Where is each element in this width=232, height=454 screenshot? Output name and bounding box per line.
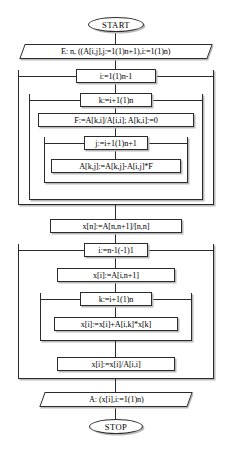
loop-k-forward-top-left-arm xyxy=(29,100,80,101)
loop-head-k-forward: k:=i+1(1)n xyxy=(80,93,152,107)
process-x-accumulate: x[i]:=x[i]+A[i,k]*x[k] xyxy=(54,317,178,331)
terminator-start: START xyxy=(88,17,144,32)
loop-head-j-label: j:=i+1(1)n+1 xyxy=(95,139,136,148)
loop-head-i-forward-label: i:=1(1)n-1 xyxy=(100,72,133,81)
io-input: E: n, ((A[i,j],j:=1(1)n+1),i:=1(1)n) xyxy=(19,44,212,59)
process-row-update-label: A[k,j]:=A[k,j]-A[i,j]*F xyxy=(79,162,153,171)
connector-loop-i-backward-exit-to-output xyxy=(115,379,116,392)
loop-k-backward-top-left-arm xyxy=(40,299,80,300)
loop-head-k-backward: k:=i+1(1)n xyxy=(80,292,152,306)
terminator-stop: STOP xyxy=(89,419,143,434)
connector-loop-k-backward-to-accumulate xyxy=(115,306,116,317)
process-x-divide-label: x[i]:=x[i]/A[i,i] xyxy=(91,360,140,369)
process-factor-assign: F:=A[k,i]/A[i,i]; A[k,i]:=0 xyxy=(38,113,194,127)
process-x-accumulate-label: x[i]:=x[i]+A[i,k]*x[k] xyxy=(81,320,151,329)
loop-head-j: j:=i+1(1)n+1 xyxy=(84,136,148,150)
process-x-divide: x[i]:=x[i]/A[i,i] xyxy=(57,357,175,371)
process-x-init: x[i]:=A[i,n+1] xyxy=(57,268,175,282)
connector-loop-j-to-row-update xyxy=(115,150,116,159)
process-factor-assign-label: F:=A[k,i]/A[i,i]; A[k,i]:=0 xyxy=(74,116,157,125)
loop-head-i-forward: i:=1(1)n-1 xyxy=(76,69,156,83)
loop-i-forward-top-left-arm xyxy=(18,76,76,77)
loop-head-k-backward-label: k:=i+1(1)n xyxy=(99,295,134,304)
connector-output-to-stop xyxy=(115,407,116,419)
terminator-start-label: START xyxy=(102,20,130,30)
io-output: A: (x[i],i:=1(1)n) xyxy=(39,392,192,407)
process-backsub-init-label: x[n]:=A[n,n+1]/[n,n] xyxy=(83,222,150,231)
loop-head-k-forward-label: k:=i+1(1)n xyxy=(99,96,134,105)
loop-i-forward-top-right-arm xyxy=(156,76,214,77)
process-backsub-init: x[n]:=A[n,n+1]/[n,n] xyxy=(50,219,182,233)
flowchart-canvas: START E: n, ((A[i,j],j:=1(1)n+1),i:=1(1)… xyxy=(0,0,232,454)
io-input-label: E: n, ((A[i,j],j:=1(1)n+1),i:=1(1)n) xyxy=(61,47,170,56)
connector-loop-i-backward-to-x-init xyxy=(115,257,116,268)
process-row-update: A[k,j]:=A[k,j]-A[i,j]*F xyxy=(51,159,181,173)
loop-head-i-backward-label: i:=n-1(-1)1 xyxy=(98,246,133,255)
connector-start-to-input xyxy=(115,32,116,44)
io-output-label: A: (x[i],i:=1(1)n) xyxy=(89,395,144,404)
loop-k-backward-top-right-arm xyxy=(152,299,192,300)
loop-head-i-backward: i:=n-1(-1)1 xyxy=(84,243,148,257)
process-x-init-label: x[i]:=A[i,n+1] xyxy=(93,271,139,280)
loop-i-backward-top-left-arm xyxy=(18,250,84,251)
loop-j-top-right-arm xyxy=(148,143,188,144)
connector-loop-i-exit-to-backsub-init xyxy=(115,205,116,219)
connector-loop-k-backward-exit-to-divide xyxy=(115,341,116,357)
loop-k-forward-top-right-arm xyxy=(152,100,203,101)
loop-j-top-left-arm xyxy=(44,143,84,144)
terminator-stop-label: STOP xyxy=(105,422,127,432)
loop-i-backward-top-right-arm xyxy=(148,250,214,251)
